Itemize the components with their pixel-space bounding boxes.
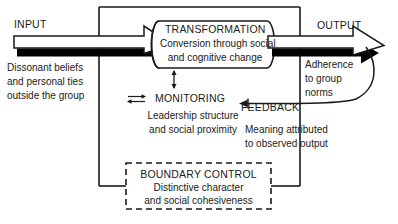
transformation-title: TRANSFORMATION <box>165 23 265 35</box>
input-description-line-2: and personal ties <box>7 76 83 88</box>
input-label: INPUT <box>14 18 47 30</box>
monitoring-title: MONITORING <box>155 92 225 104</box>
vda-head-down <box>171 84 176 89</box>
output-description-line-3: norms <box>305 87 333 99</box>
output-label: OUTPUT <box>317 19 361 31</box>
feedback-label: FEEDBACK <box>241 101 299 113</box>
boundary-control-description-line-2: and social cohesiveness <box>126 195 271 207</box>
eq-bottom-head <box>127 99 132 104</box>
input-description-line-1: Dissonant beliefs <box>7 62 83 74</box>
vertical-double-arrow-icon <box>171 70 176 89</box>
output-description-line-2: to group <box>305 73 342 85</box>
transformation-description-line-2: and cognitive change <box>160 52 270 64</box>
boundary-control-description-line-1: Distinctive character <box>126 182 271 194</box>
transformation-description-line-1: Conversion through social <box>160 38 270 50</box>
output-description-line-1: Adherence <box>305 59 353 71</box>
output-arrow <box>268 26 384 64</box>
input-arrow <box>14 26 172 61</box>
equilibrium-arrow-icon <box>127 94 146 104</box>
feedback-description-line-1: Meaning attributed <box>245 124 328 136</box>
boundary-control-title: BOUNDARY CONTROL <box>126 168 271 180</box>
vda-head-up <box>171 70 176 75</box>
feedback-description-line-2: to observed output <box>245 138 328 150</box>
diagram-canvas: INPUT Dissonant beliefs and personal tie… <box>0 0 398 224</box>
eq-top-head <box>142 94 147 99</box>
input-description-line-3: outside the group <box>7 90 84 102</box>
